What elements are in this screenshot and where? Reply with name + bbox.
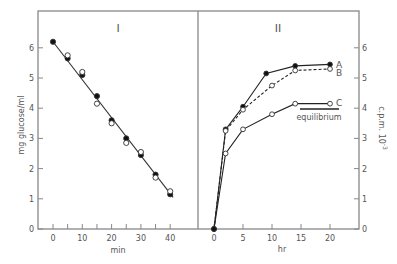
left-y-tick-label: 1 [29, 195, 34, 204]
open-data-point [153, 175, 158, 180]
series-b-line [214, 69, 330, 229]
left-y-axis-label: mg glucose/ml [17, 96, 26, 155]
panel-i-x-tick-label: 20 [107, 234, 117, 243]
series-c-point [270, 112, 275, 117]
svg-text:c.p.m. 10-3: c.p.m. 10-3 [377, 106, 389, 150]
panel-ii-title: II [275, 22, 282, 35]
series-a-point [264, 71, 269, 76]
panel-ii-x-tick-label: 20 [325, 234, 335, 243]
panel-ii [212, 62, 333, 231]
panel-ii-x-tick-label: 10 [267, 234, 277, 243]
series-a-line [214, 64, 330, 229]
right-y-axis-label: c.p.m. 10-3 [377, 106, 389, 150]
open-data-point [109, 121, 114, 126]
series-b-point [328, 67, 333, 72]
left-y-tick-label: 5 [29, 74, 34, 83]
left-y-tick-label: 4 [29, 104, 34, 113]
left-y-tick-label: 2 [29, 165, 34, 174]
panel-i-x-tick-label: 40 [165, 234, 175, 243]
left-y-tick-label: 6 [29, 44, 34, 53]
open-data-point [65, 53, 70, 58]
series-b-point [241, 107, 246, 112]
left-y-tick-label: 0 [29, 225, 34, 234]
series-c-point [212, 227, 217, 232]
equilibrium-label: equilibrium [296, 113, 341, 122]
open-data-point [124, 140, 129, 145]
panel-i-title: I [116, 22, 119, 35]
series-b-point [270, 83, 275, 88]
series-b-point [293, 68, 298, 73]
glucose-chart: 0123456012345601020304005101520 I II min… [0, 0, 397, 264]
right-y-tick-label: 6 [362, 44, 367, 53]
open-data-point [94, 101, 99, 106]
left-y-tick-label: 3 [29, 134, 34, 143]
open-data-point [80, 69, 85, 74]
legend-b: B [336, 68, 342, 78]
open-data-point [138, 149, 143, 154]
series-b-point [223, 128, 228, 133]
open-data-point [168, 189, 173, 194]
panel-ii-xlabel: hr [278, 245, 287, 254]
series-c-point [293, 101, 298, 106]
panel-ii-x-tick-label: 0 [211, 234, 216, 243]
panel-i-x-tick-label: 10 [77, 234, 87, 243]
panel-ii-x-tick-label: 5 [240, 234, 245, 243]
panel-i [50, 39, 173, 197]
filled-data-point [94, 94, 99, 99]
right-y-tick-label: 0 [362, 225, 367, 234]
right-y-tick-label: 3 [362, 134, 367, 143]
series-c-point [241, 127, 246, 132]
filled-data-point [50, 39, 55, 44]
right-y-tick-label: 4 [362, 104, 367, 113]
right-y-tick-label: 1 [362, 195, 367, 204]
right-y-tick-label: 2 [362, 165, 367, 174]
legend-c: C [336, 98, 342, 108]
panel-i-x-tick-label: 0 [50, 234, 55, 243]
series-c-point [328, 101, 333, 106]
panel-i-xlabel: min [110, 246, 125, 255]
panel-ii-x-tick-label: 15 [296, 234, 306, 243]
right-y-tick-label: 5 [362, 74, 367, 83]
series-c-point [223, 151, 228, 156]
panel-i-x-tick-label: 30 [136, 234, 146, 243]
